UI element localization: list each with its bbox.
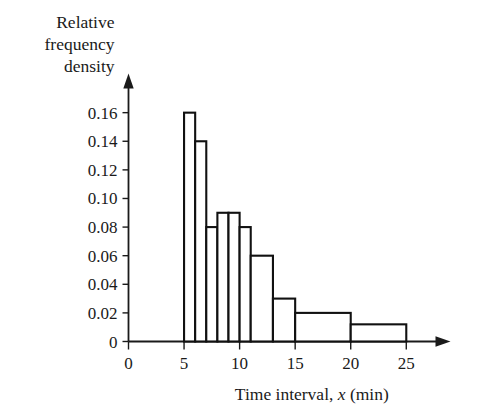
histogram-bar <box>206 227 217 341</box>
x-axis-title-suffix: (min) <box>346 384 389 404</box>
histogram-bar <box>217 213 228 342</box>
y-tick-label: 0 <box>109 333 118 352</box>
histogram-bar <box>184 113 195 342</box>
y-axis-title: Relativefrequencydensity <box>45 12 115 76</box>
histogram-bar <box>351 324 407 341</box>
histogram-bar <box>251 256 273 342</box>
y-tick-label: 0.10 <box>88 189 118 208</box>
y-tick-label: 0.14 <box>88 132 118 151</box>
y-tick-label: 0.16 <box>88 104 118 123</box>
histogram-bar <box>229 213 240 342</box>
x-tick-label: 10 <box>231 354 248 373</box>
y-tick-label: 0.04 <box>88 275 118 294</box>
x-axis-title: Time interval, x (min) <box>235 384 389 404</box>
x-tick-label: 0 <box>124 354 133 373</box>
y-axis-arrowhead <box>123 74 133 89</box>
y-tick-label: 0.12 <box>88 161 118 180</box>
y-axis-tick-labels: 00.020.040.060.080.100.120.140.16 <box>88 104 118 352</box>
y-tick-label: 0.08 <box>88 218 118 237</box>
x-axis-title-variable: x <box>337 384 346 404</box>
y-axis-title-line: density <box>64 56 115 76</box>
histogram-chart: 00.020.040.060.080.100.120.140.16 051015… <box>0 0 484 418</box>
y-tick-label: 0.06 <box>88 247 118 266</box>
y-axis-title-line: frequency <box>45 34 115 54</box>
y-axis-title-line: Relative <box>56 12 115 32</box>
histogram-bar <box>273 299 295 342</box>
x-tick-label: 5 <box>180 354 189 373</box>
histogram-bar <box>240 227 251 341</box>
x-axis-arrowhead <box>436 336 451 346</box>
chart-canvas: 00.020.040.060.080.100.120.140.16 051015… <box>0 0 484 418</box>
x-tick-label: 15 <box>287 354 304 373</box>
y-tick-label: 0.02 <box>88 304 118 323</box>
x-axis-title-prefix: Time interval, <box>235 384 338 404</box>
x-tick-label: 25 <box>398 354 415 373</box>
x-axis-tick-labels: 0510152025 <box>124 354 415 373</box>
histogram-bars <box>184 113 406 342</box>
x-tick-label: 20 <box>342 354 359 373</box>
histogram-bar <box>295 313 351 342</box>
histogram-bar <box>195 141 206 341</box>
y-axis-group: 00.020.040.060.080.100.120.140.16 <box>88 74 134 352</box>
x-axis-ticks <box>129 342 407 350</box>
